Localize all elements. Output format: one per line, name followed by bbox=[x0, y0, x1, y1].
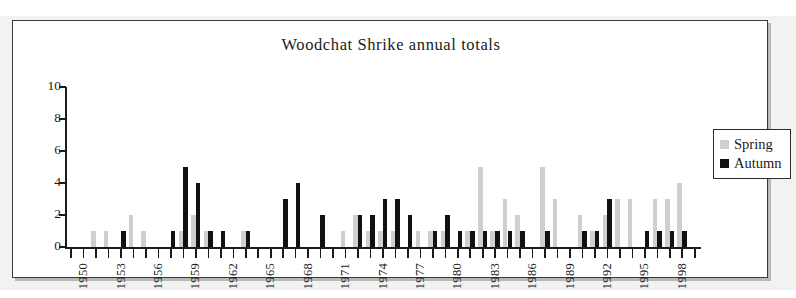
x-axis-tick-label: 1959 bbox=[188, 263, 203, 289]
y-axis-tick-label: 4 bbox=[31, 174, 61, 190]
x-axis-tick bbox=[395, 249, 397, 258]
bar-spring-1995 bbox=[628, 199, 633, 247]
bar-autumn-1985 bbox=[508, 231, 513, 247]
x-axis-tick bbox=[544, 249, 546, 258]
bar-autumn-1986 bbox=[520, 231, 525, 247]
x-axis-tick bbox=[233, 249, 235, 258]
x-axis-tick-label: 1998 bbox=[675, 263, 690, 289]
bar-spring-1953 bbox=[104, 231, 109, 247]
page-margin-bottom bbox=[0, 290, 796, 298]
x-axis-tick-label: 1953 bbox=[114, 263, 129, 289]
x-axis-tick bbox=[507, 249, 509, 258]
x-axis-tick bbox=[644, 249, 646, 258]
x-axis-tick bbox=[457, 249, 459, 258]
bar-autumn-1992 bbox=[595, 231, 600, 247]
x-axis-tick-label: 1962 bbox=[226, 263, 241, 289]
y-axis-tick-label: 8 bbox=[31, 110, 61, 126]
bar-autumn-1976 bbox=[395, 199, 400, 247]
bar-autumn-1962 bbox=[221, 231, 226, 247]
x-axis-tick-label: 1977 bbox=[413, 263, 428, 289]
x-axis-tick bbox=[120, 249, 122, 258]
x-axis-tick-label: 1992 bbox=[600, 263, 615, 289]
x-axis-tick bbox=[619, 249, 621, 258]
x-axis-tick-label: 1956 bbox=[151, 263, 166, 289]
x-axis-tick bbox=[70, 249, 72, 258]
x-axis-tick-label: 1971 bbox=[338, 263, 353, 289]
legend-item-spring: Spring bbox=[720, 135, 782, 154]
x-axis-tick bbox=[332, 249, 334, 258]
bar-spring-1952 bbox=[91, 231, 96, 247]
y-axis-tick-label: 6 bbox=[31, 142, 61, 158]
chart-legend: Spring Autumn bbox=[713, 129, 791, 179]
x-axis-tick bbox=[357, 249, 359, 258]
x-axis-tick-label: 1950 bbox=[76, 263, 91, 289]
bar-autumn-1979 bbox=[433, 231, 438, 247]
x-axis-tick bbox=[420, 249, 422, 258]
x-axis-tick-label: 1983 bbox=[488, 263, 503, 289]
x-axis-tick bbox=[307, 249, 309, 258]
x-axis-tick bbox=[382, 249, 384, 258]
bar-autumn-1982 bbox=[470, 231, 475, 247]
legend-label-autumn: Autumn bbox=[734, 155, 782, 172]
bar-autumn-1964 bbox=[246, 231, 251, 247]
bar-autumn-1970 bbox=[320, 215, 325, 247]
x-axis-tick-label: 1968 bbox=[301, 263, 316, 289]
bar-autumn-1961 bbox=[208, 231, 213, 247]
x-axis-tick bbox=[108, 249, 110, 258]
plot-area: 0246810 19501953195619591962196519681971… bbox=[65, 87, 701, 247]
x-axis-tick-label: 1986 bbox=[525, 263, 540, 289]
x-axis-tick bbox=[145, 249, 147, 258]
bar-autumn-1973 bbox=[358, 215, 363, 247]
bar-spring-1994 bbox=[615, 199, 620, 247]
x-axis-tick bbox=[245, 249, 247, 258]
chart-title: Woodchat Shrike annual totals bbox=[13, 35, 769, 55]
x-axis-tick bbox=[320, 249, 322, 258]
chart-plate: Woodchat Shrike annual totals 0246810 19… bbox=[12, 20, 768, 278]
bar-spring-1989 bbox=[553, 199, 558, 247]
bar-autumn-1988 bbox=[545, 231, 550, 247]
x-axis-tick bbox=[370, 249, 372, 258]
bar-autumn-1960 bbox=[196, 183, 201, 247]
x-axis-tick bbox=[133, 249, 135, 258]
x-axis-tick bbox=[569, 249, 571, 258]
x-axis-tick bbox=[295, 249, 297, 258]
bar-spring-1972 bbox=[341, 231, 346, 247]
bar-autumn-1991 bbox=[582, 231, 587, 247]
figure-canvas: Woodchat Shrike annual totals 0246810 19… bbox=[0, 0, 796, 298]
x-axis-tick bbox=[694, 249, 696, 258]
bar-autumn-1997 bbox=[657, 231, 662, 247]
x-axis-tick bbox=[669, 249, 671, 258]
bar-spring-1956 bbox=[141, 231, 146, 247]
x-axis-tick bbox=[607, 249, 609, 258]
bar-autumn-1975 bbox=[383, 199, 388, 247]
bar-autumn-1977 bbox=[408, 215, 413, 247]
bar-series-group bbox=[65, 87, 701, 247]
x-axis-tick bbox=[482, 249, 484, 258]
bar-autumn-1967 bbox=[283, 199, 288, 247]
x-axis-tick bbox=[532, 249, 534, 258]
x-axis-tick bbox=[681, 249, 683, 258]
x-axis-tick bbox=[158, 249, 160, 258]
x-axis-tick bbox=[632, 249, 634, 258]
bar-autumn-1996 bbox=[645, 231, 650, 247]
x-axis-tick bbox=[282, 249, 284, 258]
bar-autumn-1959 bbox=[183, 167, 188, 247]
x-axis-tick bbox=[345, 249, 347, 258]
x-axis-tick bbox=[208, 249, 210, 258]
legend-swatch-spring-icon bbox=[720, 140, 729, 149]
x-axis-tick bbox=[170, 249, 172, 258]
x-axis-tick-label: 1989 bbox=[563, 263, 578, 289]
bar-autumn-1958 bbox=[171, 231, 176, 247]
bar-autumn-1954 bbox=[121, 231, 126, 247]
x-axis-tick bbox=[432, 249, 434, 258]
x-axis-tick bbox=[469, 249, 471, 258]
x-axis-tick bbox=[257, 249, 259, 258]
y-axis-tick-label: 0 bbox=[31, 238, 61, 254]
x-axis-tick bbox=[594, 249, 596, 258]
bar-autumn-1981 bbox=[458, 231, 463, 247]
x-axis-tick bbox=[195, 249, 197, 258]
x-axis-tick bbox=[582, 249, 584, 258]
bar-spring-1978 bbox=[416, 231, 421, 247]
bar-autumn-1983 bbox=[483, 231, 488, 247]
x-axis-tick bbox=[83, 249, 85, 258]
